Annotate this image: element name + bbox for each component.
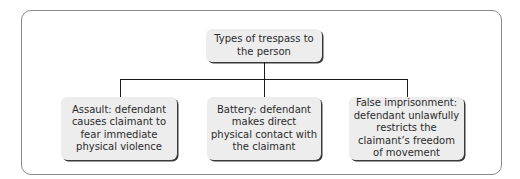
child-node-false-imprisonment: False imprisonment: defendant unlawfully…	[349, 97, 464, 160]
child-connector-1	[120, 79, 121, 97]
child-node-label: Assault: defendant causes claimant to fe…	[64, 104, 174, 154]
child-node-battery: Battery: defendant makes direct physical…	[207, 97, 321, 160]
child-node-label: False imprisonment: defendant unlawfully…	[352, 97, 461, 160]
child-connector-3	[407, 79, 408, 97]
child-node-label: Battery: defendant makes direct physical…	[210, 104, 318, 154]
root-node-label: Types of trespass to the person	[209, 33, 319, 58]
root-connector	[264, 62, 265, 79]
child-connector-2	[264, 79, 265, 97]
root-node: Types of trespass to the person	[206, 29, 322, 62]
child-node-assault: Assault: defendant causes claimant to fe…	[61, 97, 177, 160]
